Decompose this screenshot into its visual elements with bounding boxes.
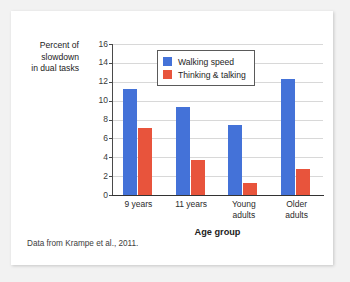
legend-item-walking-speed: Walking speed [163,55,246,68]
x-tick-label-line: 11 years [161,199,221,210]
y-tick-label: 16 [84,40,108,49]
y-tick-label: 14 [84,58,108,67]
y-tick-mark [109,44,112,45]
y-tick-label: 6 [84,134,108,143]
y-tick-label: 10 [84,96,108,105]
bar-walking-speed [228,125,242,195]
bar-thinking-talking [296,169,310,195]
y-tick-mark [109,101,112,102]
y-axis-title-line-1: Percent of [17,40,79,52]
legend-label-walking-speed: Walking speed [178,57,234,67]
y-axis-title: Percent of slowdown in dual tasks [17,40,79,75]
x-tick-label: 11 years [161,199,221,210]
y-axis-ticks: 0246810121416 [83,44,108,195]
y-tick-mark [109,63,112,64]
figure-card: Percent of slowdown in dual tasks 024681… [11,11,333,265]
legend-label-thinking-talking: Thinking & talking [178,70,246,80]
y-tick-mark [109,176,112,177]
bar-walking-speed [123,89,137,195]
x-tick-label-line: 9 years [108,199,168,210]
y-tick-mark [109,195,112,196]
y-tick-label: 2 [84,172,108,181]
figure-footnote: Data from Krampe et al., 2011. [27,239,138,248]
y-axis-title-line-3: in dual tasks [17,63,79,75]
legend-item-thinking-talking: Thinking & talking [163,68,246,81]
bar-thinking-talking [243,183,257,195]
y-tick-mark [109,120,112,121]
y-tick-label: 8 [84,115,108,124]
x-axis-line [112,195,324,196]
y-tick-label: 0 [84,191,108,200]
chart-legend: Walking speed Thinking & talking [157,50,255,86]
x-tick-label: Youngadults [214,199,274,220]
bar-thinking-talking [191,160,205,195]
x-tick-label-line: Young [214,199,274,210]
y-tick-mark [109,82,112,83]
legend-swatch-thinking-talking [163,70,172,79]
x-tick-label-line: adults [267,210,327,221]
y-tick-label: 12 [84,77,108,86]
bar-thinking-talking [138,128,152,195]
bar-walking-speed [176,107,190,195]
x-tick-label-line: adults [214,210,274,221]
y-axis-title-line-2: slowdown [17,52,79,64]
y-tick-mark [109,138,112,139]
y-tick-mark [109,157,112,158]
bar-walking-speed [281,79,295,195]
legend-swatch-walking-speed [163,57,172,66]
x-tick-label-line: Older [267,199,327,210]
x-tick-label: Olderadults [267,199,327,220]
bar-chart: Percent of slowdown in dual tasks 024681… [11,11,333,265]
y-axis-line [112,44,113,196]
x-tick-label: 9 years [108,199,168,210]
x-axis-title: Age group [112,227,323,237]
y-tick-label: 4 [84,153,108,162]
gridline [112,44,323,45]
